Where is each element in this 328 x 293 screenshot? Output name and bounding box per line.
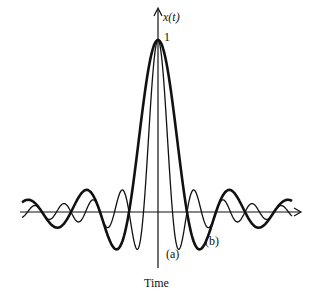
peak-label: 1 [164, 31, 170, 43]
x-axis-label: Time [144, 277, 169, 289]
label-a: (a) [166, 248, 179, 260]
label-b: (b) [205, 235, 219, 247]
curve-b [22, 40, 292, 249]
curve-a [22, 40, 292, 249]
y-axis-label: x(t) [163, 11, 180, 23]
